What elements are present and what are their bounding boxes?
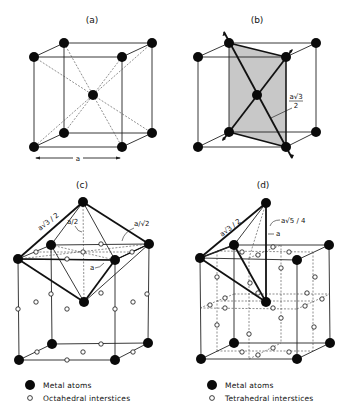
metal-atom bbox=[47, 339, 57, 349]
metal-atom bbox=[14, 355, 24, 365]
metal-atom bbox=[229, 338, 239, 348]
metal-atom bbox=[193, 142, 203, 152]
metal-atom bbox=[292, 255, 302, 265]
panel-d: (d) bbox=[195, 180, 335, 364]
label-a-over-2: a/2 bbox=[67, 218, 78, 226]
dimension-a-root3-den: 2 bbox=[294, 102, 298, 110]
label-a: a bbox=[276, 230, 280, 238]
metal-atom bbox=[117, 142, 127, 152]
metal-atom bbox=[195, 253, 205, 263]
metal-atom bbox=[117, 52, 127, 62]
metal-atom bbox=[224, 127, 234, 137]
metal-atom bbox=[193, 52, 203, 62]
legend-tetrahedral-icon bbox=[210, 396, 215, 401]
metal-atom bbox=[311, 38, 321, 48]
metal-atom bbox=[281, 142, 291, 152]
legend-c: Metal atoms Octahedral interstices bbox=[25, 380, 130, 403]
panel-a-label: (a) bbox=[86, 15, 99, 25]
metal-atom-center bbox=[252, 90, 262, 100]
metal-atom-center bbox=[88, 90, 98, 100]
bcc-interstices-figure: (a) a (b) bbox=[0, 0, 351, 412]
legend-metal-icon bbox=[25, 380, 35, 390]
panel-d-label: (d) bbox=[257, 180, 270, 190]
metal-atom bbox=[229, 240, 239, 250]
dimension-a-root3-num: a√3 bbox=[289, 93, 302, 101]
metal-atom bbox=[143, 338, 153, 348]
metal-atom bbox=[281, 52, 291, 62]
legend-octahedral-icon bbox=[28, 396, 33, 401]
metal-atom bbox=[325, 338, 335, 348]
panel-b: (b) a√3 2 bbox=[193, 15, 321, 159]
metal-atom bbox=[292, 354, 302, 364]
legend-metal-icon bbox=[207, 380, 217, 390]
metal-atom bbox=[110, 255, 120, 265]
legend-d: Metal atoms Tetrahedral interstices bbox=[207, 380, 313, 403]
metal-atom bbox=[261, 198, 271, 208]
metal-atom bbox=[144, 239, 154, 249]
metal-atom bbox=[59, 128, 69, 138]
metal-atom bbox=[311, 127, 321, 137]
dimension-a-label: a bbox=[76, 155, 80, 163]
metal-atom-center bbox=[79, 297, 89, 307]
metal-atom bbox=[224, 38, 234, 48]
legend-metal-label: Metal atoms bbox=[225, 381, 274, 390]
panel-b-label: (b) bbox=[251, 15, 264, 25]
metal-atom bbox=[147, 128, 157, 138]
metal-atom bbox=[29, 142, 39, 152]
legend-tetrahedral-label: Tetrahedral interstices bbox=[224, 394, 313, 403]
legend-metal-label: Metal atoms bbox=[43, 381, 92, 390]
metal-atom bbox=[13, 254, 23, 264]
metal-atom bbox=[59, 38, 69, 48]
label-a-root3-over-2: a√3 / 2 bbox=[36, 211, 60, 232]
label-a: a bbox=[90, 264, 94, 272]
legend-octahedral-label: Octahedral interstices bbox=[43, 394, 130, 403]
metal-atom bbox=[46, 240, 56, 250]
metal-atom bbox=[29, 52, 39, 62]
metal-atom bbox=[147, 38, 157, 48]
label-a-over-root2: a/√2 bbox=[134, 220, 150, 228]
metal-atom bbox=[196, 354, 206, 364]
metal-atom bbox=[110, 355, 120, 365]
label-a-root3-over-2: a√3 / 2 bbox=[218, 217, 242, 238]
panel-c-label: (c) bbox=[76, 180, 88, 190]
label-a-root5-over-4: a√5 / 4 bbox=[281, 217, 306, 225]
metal-atom bbox=[324, 240, 334, 250]
panel-c: (c) bbox=[13, 180, 154, 365]
panel-a: (a) a bbox=[29, 15, 157, 163]
metal-atom-center bbox=[261, 297, 271, 307]
metal-atom bbox=[78, 197, 88, 207]
